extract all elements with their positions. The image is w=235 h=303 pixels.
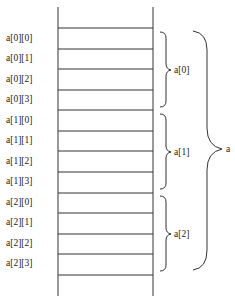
element-label: a[2][0] <box>6 197 32 207</box>
brace-a2-icon <box>160 196 171 271</box>
memory-diagram <box>0 0 235 303</box>
element-label: a[2][2] <box>6 238 32 248</box>
brace-a0-icon <box>160 32 171 107</box>
element-label: a[0][2] <box>6 74 32 84</box>
element-label: a[2][3] <box>6 258 32 268</box>
element-label: a[0][3] <box>6 94 32 104</box>
array-label: a <box>226 144 230 154</box>
element-label: a[2][1] <box>6 217 32 227</box>
element-label: a[0][0] <box>6 33 32 43</box>
element-label: a[1][3] <box>6 176 32 186</box>
cell-dividers <box>58 28 153 275</box>
element-label: a[1][1] <box>6 135 32 145</box>
element-label: a[0][1] <box>6 53 32 63</box>
row-group-label: a[1] <box>174 147 189 157</box>
row-group-label: a[0] <box>174 65 189 75</box>
element-label: a[1][0] <box>6 115 32 125</box>
row-group-label: a[2] <box>174 229 189 239</box>
brace-a1-icon <box>160 114 171 189</box>
brace-a-icon <box>193 31 222 270</box>
element-label: a[1][2] <box>6 156 32 166</box>
